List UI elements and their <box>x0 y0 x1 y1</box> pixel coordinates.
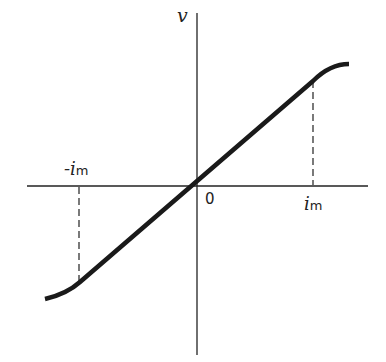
negative-im-symbol: -i <box>64 158 76 179</box>
positive-im-subscript: m <box>310 198 323 213</box>
negative-im-subscript: m <box>76 163 89 178</box>
negative-im-label: -im <box>64 160 89 178</box>
y-axis-label: v <box>177 6 188 25</box>
origin-label: 0 <box>205 192 215 207</box>
positive-im-label: im <box>304 195 322 213</box>
characteristic-diagram <box>0 0 386 362</box>
